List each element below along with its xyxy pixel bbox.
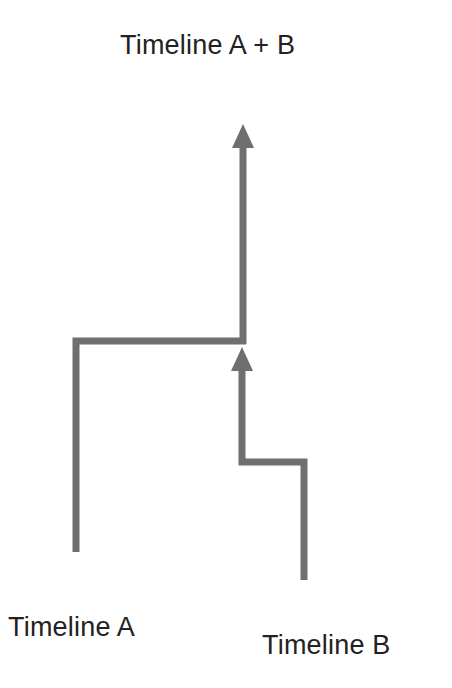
timeline-a-label: Timeline A <box>8 612 135 643</box>
timeline-merge-diagram <box>0 0 452 688</box>
timeline-b-label: Timeline B <box>262 630 391 661</box>
timeline-b-path <box>242 368 304 580</box>
timeline-a-path <box>76 341 246 552</box>
merge-arrow-icon <box>231 347 253 371</box>
arrow-up-icon <box>232 124 254 148</box>
